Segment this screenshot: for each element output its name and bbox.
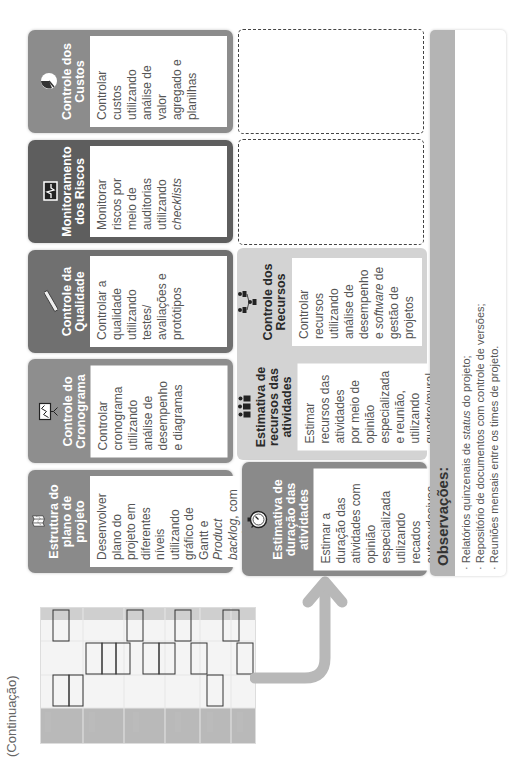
card-title: Estimativa de recursos das atividades — [254, 355, 293, 458]
observations-header-band: Observações: — [430, 30, 455, 576]
card-header: Estrutura do plano de projeto — [32, 474, 90, 569]
card-controle-custos: Controle dos Custos Controlar custos uti… — [28, 30, 233, 133]
card-estimativa-recursos: Estimativa de recursos das atividades Es… — [237, 355, 427, 458]
card-title: Controle dos Custos — [61, 34, 87, 129]
chart-board-icon — [38, 401, 58, 421]
card-header: Controle dos Custos — [32, 34, 90, 129]
org-chart-people-icon — [237, 289, 259, 315]
card-description: Controlar a qualidade utilizando testes/… — [90, 256, 227, 347]
card-title: Controle dos Recursos — [262, 250, 288, 354]
observations-title: Observações: — [434, 467, 451, 566]
card-title: Controle da Qualidade — [61, 254, 87, 349]
previous-page-thumbnail — [40, 607, 256, 744]
card-header: Estimativa de duração das atividades — [246, 466, 313, 572]
empty-placeholder-box — [238, 29, 424, 134]
card-description: Controlar custos utilizando análise de v… — [90, 36, 227, 127]
text-italic: Product backlog — [211, 519, 240, 560]
folded-map-icon — [32, 512, 45, 532]
card-header: Controle dos Recursos — [237, 250, 292, 354]
card-header: Controle da Qualidade — [32, 254, 90, 349]
card-header: Monitoramento dos Riscos — [32, 144, 90, 239]
card-controle-cronograma: Controle do Cronograma Controlar cronogr… — [28, 359, 233, 463]
ruler-icon — [44, 290, 58, 314]
observations-list: · Relatórios quinzenais de status do pro… — [455, 30, 505, 576]
card-description: Estimar recursos das atividades por meio… — [297, 363, 442, 450]
card-estimativa-duracao: Estimativa de duração das atividades Est… — [242, 462, 427, 576]
card-title: Controle do Cronograma — [61, 363, 87, 459]
curved-arrow-icon — [250, 570, 350, 690]
card-description: Controlar recursos utilizando análise de… — [292, 258, 422, 346]
continuation-label: (Continuação) — [4, 617, 24, 757]
card-title: Estrutura do plano de projeto — [48, 474, 87, 569]
table-thumbnail-graphic — [41, 608, 255, 743]
observation-item: · Repositório de documentos com controle… — [473, 36, 487, 570]
card-estrutura-plano-projeto: Estrutura do plano de projeto Desenvolve… — [28, 470, 233, 573]
card-controle-recursos: Controle dos Recursos Controlar recursos… — [237, 250, 427, 354]
observation-item: · Reuniões mensais entre os times de pro… — [487, 36, 501, 570]
text-part: Monitorar riscos por meio de auditorias … — [95, 178, 169, 230]
observations-panel: Observações: · Relatórios quinzenais de … — [430, 30, 506, 576]
text-italic: software — [372, 284, 386, 329]
observation-item: · Relatórios quinzenais de status do pro… — [459, 36, 473, 570]
card-monitoramento-riscos: Monitoramento dos Riscos Monitorar risco… — [28, 140, 233, 243]
text-part: Desenvolver plano do projeto em diferent… — [95, 493, 211, 560]
card-description: Monitorar riscos por meio de auditorias … — [90, 146, 227, 237]
card-title: Estimativa de duração das atividades — [271, 466, 310, 572]
text-part: do projeto; — [460, 355, 472, 410]
pie-chart-icon — [40, 73, 58, 91]
card-description: Controlar cronograma utilizando análise … — [90, 365, 227, 457]
stopwatch-icon — [246, 508, 268, 530]
card-title: Monitoramento dos Riscos — [61, 144, 87, 239]
card-header: Estimativa de recursos das atividades — [237, 355, 297, 458]
card-description: Estimar a duração das atividades com opi… — [313, 468, 443, 570]
card-controle-qualidade: Controle da Qualidade Controlar a qualid… — [28, 250, 233, 353]
heartbeat-monitor-icon — [43, 182, 58, 202]
text-italic: status — [460, 410, 472, 439]
card-header: Controle do Cronograma — [32, 363, 90, 459]
text-part: · Relatórios quinzenais de — [460, 440, 472, 570]
team-people-icon — [237, 394, 251, 420]
empty-placeholder-box — [238, 139, 424, 245]
text-italic: checklists — [170, 178, 184, 230]
